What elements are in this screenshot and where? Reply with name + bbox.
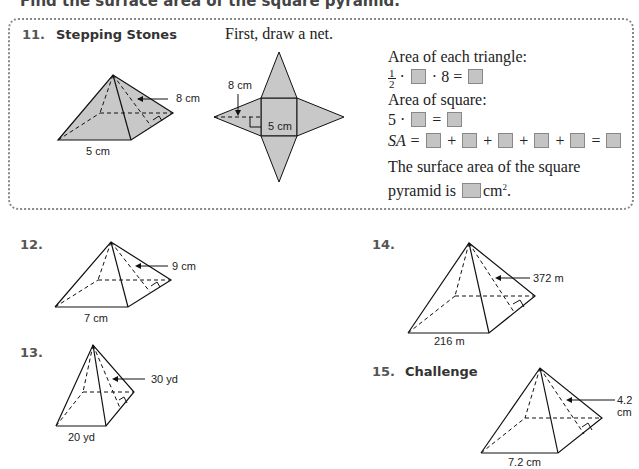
triangle-area-label: Area of each triangle: bbox=[388, 48, 527, 66]
stepping-stones-box bbox=[8, 18, 634, 210]
pyramid-15-base-label: 7.2 cm bbox=[508, 456, 541, 468]
answer-box[interactable] bbox=[462, 133, 477, 148]
problem-12-number: 12. bbox=[20, 237, 43, 252]
conclusion-line-1: The surface area of the square bbox=[388, 158, 580, 176]
problem-11-heading: Stepping Stones bbox=[56, 27, 177, 42]
pyramid-15-slant-label: 4.2 cm bbox=[617, 394, 639, 418]
triangle-area-equation: 12 · · 8 = bbox=[388, 68, 485, 89]
pyramid-14-base-label: 216 m bbox=[434, 335, 465, 347]
net-slant-label: 8 cm bbox=[228, 79, 252, 91]
pyramid-14-slant-label: 372 m bbox=[533, 272, 564, 284]
instruction-text: Find the surface area of the square pyra… bbox=[20, 0, 400, 10]
conclusion-line-2: pyramid is cm2. bbox=[388, 178, 511, 200]
answer-box[interactable] bbox=[447, 112, 462, 127]
square-area-equation: 5 · = bbox=[388, 111, 464, 129]
square-area-label: Area of square: bbox=[388, 91, 487, 109]
problem-11-prompt: First, draw a net. bbox=[225, 25, 333, 43]
problem-15-heading: Challenge bbox=[405, 364, 478, 379]
answer-box[interactable] bbox=[411, 69, 426, 84]
answer-box[interactable] bbox=[498, 133, 513, 148]
pyramid-11-base-label: 5 cm bbox=[86, 145, 110, 157]
pyramid-13-base-label: 20 yd bbox=[68, 431, 95, 443]
pyramid-13-slant-label: 30 yd bbox=[151, 373, 178, 385]
pyramid-12-slant-label: 9 cm bbox=[172, 260, 196, 272]
answer-box[interactable] bbox=[411, 112, 426, 127]
pyramid-12-base-label: 7 cm bbox=[84, 312, 108, 324]
problem-14-number: 14. bbox=[372, 237, 395, 252]
answer-box[interactable] bbox=[606, 133, 621, 148]
answer-box[interactable] bbox=[534, 133, 549, 148]
answer-box[interactable] bbox=[570, 133, 585, 148]
sa-equation: SA = + + + + = bbox=[388, 132, 623, 150]
answer-box[interactable] bbox=[462, 183, 481, 198]
net-base-label: 5 cm bbox=[268, 120, 292, 132]
answer-box[interactable] bbox=[468, 69, 483, 84]
pyramid-11-slant-label: 8 cm bbox=[176, 92, 200, 104]
problem-13-number: 13. bbox=[20, 345, 43, 360]
problem-15-number: 15. bbox=[372, 364, 395, 379]
answer-box[interactable] bbox=[426, 133, 441, 148]
problem-11-number: 11. bbox=[22, 27, 45, 42]
